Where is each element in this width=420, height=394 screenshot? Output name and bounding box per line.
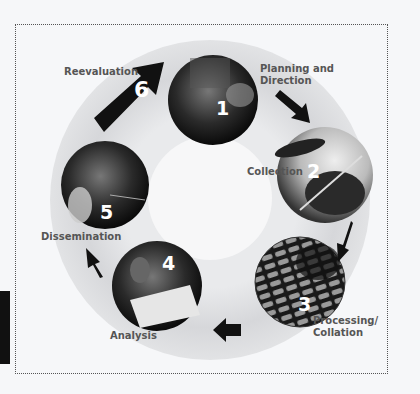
step-1-label-line1: Planning and (260, 63, 334, 75)
step-4-photo (112, 241, 202, 331)
step-6-number: 6 (134, 80, 149, 100)
step-1-label-line2: Direction (260, 75, 312, 87)
step-6-label: Reevaluation (64, 66, 138, 78)
step-1-number: 1 (216, 98, 229, 118)
step-5-label: Dissemination (41, 231, 121, 243)
step-5-number: 5 (100, 202, 113, 222)
step-3-label-line1: Processing/ (313, 315, 378, 327)
step-2-number: 2 (307, 161, 320, 181)
step-3-number: 3 (298, 294, 311, 314)
step-4-number: 4 (162, 253, 175, 273)
step-2-label: Collection (247, 166, 303, 178)
step-4-label: Analysis (110, 330, 157, 342)
step-1-photo (168, 55, 258, 145)
step-3-label-line2: Collation (313, 327, 363, 339)
